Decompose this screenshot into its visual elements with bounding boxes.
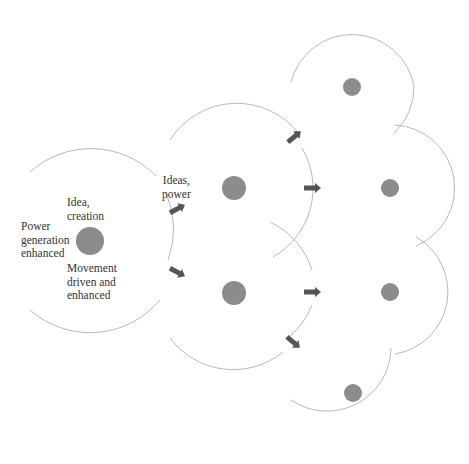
label-ideas-power: Ideas, power — [162, 174, 191, 201]
arrow-icon — [168, 200, 188, 217]
node-bottom — [291, 348, 391, 411]
node-mid-upper — [170, 103, 313, 257]
circle-mid-lower-arc-bottom — [170, 338, 283, 370]
circle-mid-upper-arc-right — [273, 148, 313, 257]
node-mid-lower — [170, 222, 312, 370]
circle-right-upper-arc — [395, 125, 455, 246]
label-movement: Movement driven and enhanced — [67, 262, 117, 303]
circle-mid-upper-arc — [170, 103, 300, 140]
arrow-icon — [168, 264, 188, 281]
label-power-generation: Power generation enhanced — [21, 220, 70, 261]
node-dot-top — [343, 78, 361, 96]
circle-bottom-arc — [291, 348, 391, 411]
circle-mid-lower-arc-top — [270, 222, 312, 270]
label-idea-creation: Idea, creation — [67, 196, 104, 223]
arrow-icon — [284, 333, 303, 352]
circle-origin-arc-lower — [30, 300, 160, 333]
circle-origin-arc-right — [166, 193, 173, 260]
node-dot-bottom — [344, 384, 362, 402]
diagram-canvas — [0, 0, 469, 464]
arrow-icon — [285, 127, 304, 146]
node-dot-origin — [76, 227, 104, 255]
circle-origin-arc — [30, 149, 156, 176]
node-top — [291, 35, 414, 133]
arrows — [168, 127, 321, 351]
circle-right-lower-arc — [395, 237, 448, 354]
node-right-lower — [381, 237, 448, 354]
node-dot-mid-upper — [222, 176, 246, 200]
node-right-upper — [381, 125, 455, 246]
node-dot-right-lower — [381, 283, 399, 301]
node-dot-mid-lower — [222, 281, 246, 305]
node-dot-right-upper — [381, 179, 399, 197]
circle-mid-lower-arc-right — [290, 305, 312, 336]
arrow-icon — [304, 287, 321, 297]
